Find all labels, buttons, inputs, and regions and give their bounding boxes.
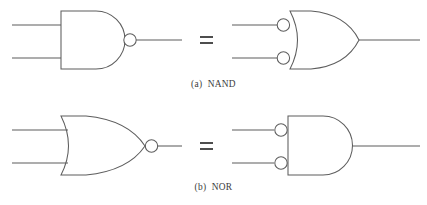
output-bubble-icon (124, 34, 136, 46)
nand-gate[interactable] (12, 11, 182, 69)
row-a-nand-group (12, 11, 420, 69)
output-bubble-icon (145, 140, 157, 152)
or-body-shape (61, 116, 145, 175)
input-bubble-top-icon (277, 19, 289, 31)
row-b-nor-group (12, 116, 420, 175)
caption-nor: (b) NOR (0, 182, 427, 192)
logic-gate-figure: (a) NAND (b) NOR (0, 0, 427, 205)
negative-and-gate[interactable] (232, 116, 420, 175)
and-body-shape (288, 116, 353, 175)
nor-gate[interactable] (12, 116, 182, 175)
caption-nand: (a) NAND (0, 79, 427, 89)
input-bubble-bottom-icon (275, 157, 287, 169)
input-bubble-bottom-icon (277, 52, 289, 64)
equals-sign-b (200, 143, 213, 149)
and-body-shape (61, 11, 125, 69)
gate-diagram-canvas (0, 0, 427, 205)
negative-or-gate[interactable] (232, 11, 420, 69)
equals-sign-a (200, 37, 213, 43)
or-body-shape (290, 11, 359, 69)
input-bubble-top-icon (275, 124, 287, 136)
